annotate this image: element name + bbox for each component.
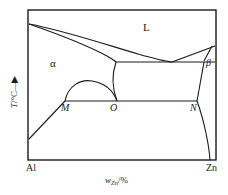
region-label-beta: β xyxy=(206,58,211,68)
beta-solvus-lower-line xyxy=(197,101,210,160)
y-axis-title: T/°C—▶ xyxy=(10,63,19,123)
x-axis-title: wZn/% xyxy=(105,176,128,186)
region-label-alpha: α xyxy=(50,58,56,69)
x-axis-title-unit: % xyxy=(120,175,128,185)
axis-endpoint-label-zn: Zn xyxy=(206,163,217,173)
miscibility-gap-dome xyxy=(65,81,117,101)
y-axis-title-slash: / xyxy=(9,101,19,104)
y-axis-title-unit: °C xyxy=(9,91,19,101)
y-axis-title-variable: T xyxy=(9,103,19,108)
phase-diagram-figure: L α β M O N Al Zn wZn/% T/°C—▶ xyxy=(0,0,228,195)
point-label-m: M xyxy=(61,103,69,113)
x-axis-title-subscript: Zn xyxy=(111,179,118,186)
y-axis-direction-arrow-icon: —▶ xyxy=(9,77,19,91)
alpha-solvus-left-line xyxy=(29,101,65,139)
region-label-liquid: L xyxy=(143,22,150,33)
point-label-n: N xyxy=(190,103,197,113)
point-label-o: O xyxy=(110,103,117,113)
beta-solvus-middle-line xyxy=(197,62,204,101)
axis-endpoint-label-al: Al xyxy=(26,163,36,173)
plot-frame xyxy=(28,10,216,160)
